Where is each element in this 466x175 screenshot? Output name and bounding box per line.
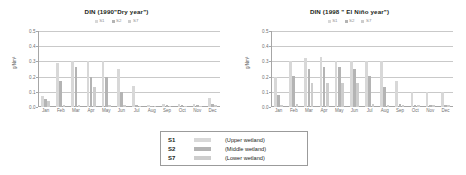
y-axis-tick-label: 0.5 — [29, 29, 35, 34]
chart-panel-dry-year: DIN (1990"Dry year") S1 S2 S7 g/Nm³ 0.50… — [0, 0, 233, 124]
y-axis-tick-label: 0.0 — [262, 105, 268, 110]
inline-legend-item-s7: S7 — [361, 19, 371, 23]
legend-swatch — [194, 156, 211, 160]
bar — [132, 86, 135, 107]
x-axis-tick-label: May — [332, 108, 347, 113]
bar — [169, 106, 172, 107]
legend-swatch — [194, 138, 211, 142]
bar-group — [38, 31, 53, 107]
bar-group — [205, 31, 220, 107]
bar-group — [271, 31, 286, 107]
inline-legend-swatch-s7 — [361, 20, 364, 23]
bar-group — [159, 31, 174, 107]
x-axis-tick-label: Feb — [286, 108, 301, 113]
plot-area: 0.50.40.30.20.10.0 — [271, 31, 453, 107]
bars-layer — [271, 31, 453, 107]
x-axis-tick-label: Oct — [175, 108, 190, 113]
inline-legend-item-s2: S2 — [345, 19, 355, 23]
x-axis-tick-label: Feb — [53, 108, 68, 113]
inline-legend-label-s2: S2 — [349, 19, 354, 23]
x-axis-tick-labels: JanFebMarAprMayJunJulAugSepOctNovDec — [38, 108, 220, 113]
x-axis-tick-label: May — [99, 108, 114, 113]
bar — [63, 105, 66, 107]
legend-row: S2(Middle wetland) — [168, 144, 301, 153]
y-axis-tick-label: 0.2 — [29, 74, 35, 79]
x-axis-tick-label: Sep — [392, 108, 407, 113]
y-axis-tick-label: 0.5 — [262, 29, 268, 34]
legend-swatch — [194, 147, 211, 151]
bar-group — [68, 31, 83, 107]
bar-group — [175, 31, 190, 107]
legend-description: (Middle wetland) — [225, 146, 266, 152]
bars-layer — [38, 31, 220, 107]
inline-legend-swatch-s2 — [345, 20, 348, 23]
y-axis-tick-label: 0.1 — [262, 89, 268, 94]
y-axis-tick-label: 0.0 — [29, 105, 35, 110]
y-axis-tick-label: 0.4 — [29, 44, 35, 49]
inline-legend-swatch-s1 — [95, 20, 98, 23]
x-axis-tick-label: Oct — [408, 108, 423, 113]
chart-title: DIN (1990"Dry year") — [0, 8, 233, 15]
bar-group — [362, 31, 377, 107]
bar-group — [114, 31, 129, 107]
legend-description: (Lower wetland) — [225, 155, 265, 161]
y-axis-tick-label: 0.4 — [262, 44, 268, 49]
x-axis-tick-label: Apr — [84, 108, 99, 113]
bar — [78, 105, 81, 107]
legend-description: (Upper wetland) — [225, 137, 265, 143]
legend-box: S1(Upper wetland)S2(Middle wetland)S7(Lo… — [160, 131, 308, 166]
inline-legend-item-s1: S1 — [328, 19, 338, 23]
inline-legend: S1 S2 S7 — [0, 19, 233, 23]
y-axis-tick-label: 0.3 — [262, 59, 268, 64]
bar — [280, 105, 283, 107]
x-axis-tick-label: Nov — [423, 108, 438, 113]
x-axis-tick-label: Apr — [317, 108, 332, 113]
x-axis-tick-labels: JanFebMarAprMayJunJulAugSepOctNovDec — [271, 108, 453, 113]
bar — [402, 105, 405, 107]
bar — [108, 105, 111, 107]
chart-title: DIN (1998 " El Niño year") — [233, 8, 466, 15]
inline-legend-item-s1: S1 — [95, 19, 105, 23]
bar — [154, 106, 157, 107]
figure-root: DIN (1990"Dry year") S1 S2 S7 g/Nm³ 0.50… — [0, 0, 466, 175]
bar-group — [408, 31, 423, 107]
x-axis-tick-label: Jul — [129, 108, 144, 113]
inline-legend-item-s2: S2 — [112, 19, 122, 23]
x-axis-tick-label: Aug — [377, 108, 392, 113]
bar — [214, 105, 217, 107]
bar-group — [286, 31, 301, 107]
bar — [93, 87, 96, 107]
bar — [292, 76, 295, 107]
y-axis-title: g/Nm³ — [245, 57, 250, 69]
x-axis-tick-label: Jun — [114, 108, 129, 113]
bar — [123, 105, 126, 107]
legend-row: S1(Upper wetland) — [168, 135, 301, 144]
bar — [184, 106, 187, 107]
bar — [447, 105, 450, 107]
inline-legend-label-s2: S2 — [116, 19, 121, 23]
legend-key: S7 — [168, 155, 194, 161]
inline-legend-label-s1: S1 — [99, 19, 104, 23]
chart-panel-el-nino-year: DIN (1998 " El Niño year") S1 S2 S7 g/Nm… — [233, 0, 466, 124]
inline-legend-swatch-s1 — [328, 20, 331, 23]
inline-legend: S1 S2 S7 — [233, 19, 466, 23]
x-axis-tick-label: Jan — [271, 108, 286, 113]
inline-legend-label-s7: S7 — [366, 19, 371, 23]
y-axis-title: g/Nm³ — [12, 57, 17, 69]
y-axis-tick-label: 0.1 — [29, 89, 35, 94]
bar-group — [317, 31, 332, 107]
bar — [341, 83, 344, 107]
bar-group — [144, 31, 159, 107]
y-axis-tick-label: 0.2 — [262, 74, 268, 79]
bar-group — [84, 31, 99, 107]
inline-legend-swatch-s2 — [112, 20, 115, 23]
x-axis-tick-label: Jul — [362, 108, 377, 113]
x-axis-tick-label: Dec — [205, 108, 220, 113]
bar-group — [377, 31, 392, 107]
legend-key: S2 — [168, 146, 194, 152]
bar — [47, 101, 50, 107]
bar — [296, 104, 299, 107]
x-axis-tick-label: Aug — [144, 108, 159, 113]
bar — [311, 83, 314, 107]
x-axis-tick-label: Mar — [301, 108, 316, 113]
